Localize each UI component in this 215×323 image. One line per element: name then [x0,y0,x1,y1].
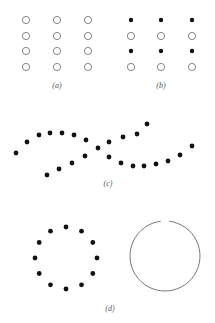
open-circle [22,32,29,39]
figure-canvas: (a) (b) (c) (d) [0,0,215,323]
curve-dot [178,153,183,158]
curve-dot [60,131,65,136]
ring-dot [33,256,38,261]
curve-dot [25,140,30,145]
open-circle [127,63,134,70]
curve-dot [145,122,150,127]
open-circle [22,63,29,70]
curve-dot [83,154,88,159]
panel-d-gapped-circle [130,221,200,291]
open-circle [22,47,29,54]
panel-a-open-circle-grid [22,16,91,70]
curve-dot [190,144,195,149]
label-a: (a) [52,81,62,90]
curve-dot [121,135,126,140]
curve-dot [131,164,136,169]
open-circle [84,47,91,54]
open-circle [127,32,134,39]
label-d: (d) [105,304,115,313]
filled-dot [159,18,163,22]
open-circle [53,16,60,23]
open-circle [53,32,60,39]
curve-dot [142,164,147,169]
curve-dot [72,133,77,138]
curve-dot [37,133,42,138]
ring-dot [64,225,69,230]
open-circle [53,47,60,54]
ring-dot [48,229,53,234]
filled-dot [190,49,194,53]
filled-dot [159,49,163,53]
open-circle [84,63,91,70]
filled-dot [129,49,133,53]
curve-dot [45,173,50,178]
ring-dot [90,240,95,245]
curve-dot [135,132,140,137]
panel-c-crossing-dot-curves [14,122,195,178]
open-circle [84,16,91,23]
curve-dot [70,161,75,166]
label-b: (b) [156,81,166,90]
curve-dot [96,146,101,151]
ring-dot [48,282,53,287]
label-c: (c) [104,179,113,188]
ring-dot [64,287,69,292]
curve-dot [107,155,112,160]
panel-d-dot-ring [33,225,100,292]
curve-dot [154,162,159,167]
open-circle [22,16,29,23]
curve-dot [84,138,89,143]
ring-dot [79,229,84,234]
open-circle [53,63,60,70]
ring-dot [79,282,84,287]
ring-dot [37,240,42,245]
ring-dot [37,271,42,276]
curve-dot [119,161,124,166]
curve-dot [107,140,112,145]
panel-b-alternating-grid [127,18,195,71]
curve-dot [48,131,53,136]
ring-dot [90,271,95,276]
ring-dot [95,256,100,261]
curve-dot [57,167,62,172]
open-circle [188,63,195,70]
filled-dot [129,18,133,22]
filled-dot [190,18,194,22]
open-circle [157,63,164,70]
open-circle [188,32,195,39]
open-circle [84,32,91,39]
open-circle [157,32,164,39]
curve-dot [166,159,171,164]
curve-dot [14,151,19,156]
